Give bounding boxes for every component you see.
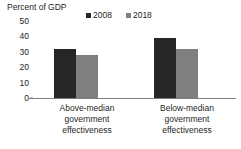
y-axis-title: Percent of GDP [7,2,67,12]
category-label-1-line-1: government [139,114,235,125]
bar-group-0 [54,21,98,98]
category-label-1: Below-mediangovernmenteffectiveness [139,103,235,136]
legend-swatch-2018 [126,13,131,18]
bar-2018-group-0 [76,55,98,98]
y-tick-label-0: 0 [3,94,29,103]
legend-item-2018: 2018 [126,11,152,20]
y-tick-label-30: 30 [3,47,29,56]
bar-chart: Percent of GDP 2008 2018 50403020100 Abo… [0,0,241,149]
category-label-1-line-0: Below-median [139,103,235,114]
category-label-0-line-0: Above-median [39,103,135,114]
bar-2008-group-0 [54,49,76,98]
bar-2008-group-1 [154,38,176,98]
y-tick-label-10: 10 [3,78,29,87]
bar-group-1 [154,21,198,98]
plot-area: 50403020100 [33,21,236,99]
bar-2018-group-1 [176,49,198,98]
x-axis-line [28,98,236,99]
y-tick-label-40: 40 [3,32,29,41]
category-label-0: Above-mediangovernmenteffectiveness [39,103,135,136]
y-tick-label-50: 50 [3,17,29,26]
legend-swatch-2008 [86,13,91,18]
legend-label-2008: 2008 [93,11,112,20]
chart-legend: 2008 2018 [86,11,152,20]
category-label-0-line-2: effectiveness [39,125,135,136]
legend-item-2008: 2008 [86,11,112,20]
y-tick-label-20: 20 [3,63,29,72]
legend-label-2018: 2018 [133,11,152,20]
category-label-1-line-2: effectiveness [139,125,235,136]
category-label-0-line-1: government [39,114,135,125]
